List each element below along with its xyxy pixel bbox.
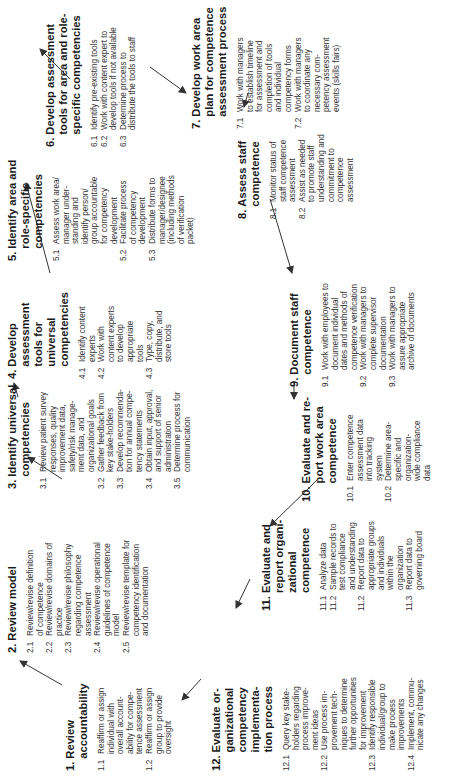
list-item: 9.2Work with managers to complete superv… — [359, 257, 388, 387]
list-item: 11.2Report data to appropriate groups an… — [357, 501, 405, 611]
text: 5. — [6, 249, 45, 261]
item-number: 9.2 — [359, 370, 388, 387]
list-item: 5.2Facilitate process of competency deve… — [119, 149, 148, 261]
item-text: Review/revise template for competency id… — [122, 540, 151, 636]
list-item: 3.4Obtain input, approval, and support o… — [145, 367, 174, 489]
item-text: Review patient survey responses, quality… — [39, 392, 97, 472]
item-text: Determine process for communication — [173, 391, 192, 472]
list-item: 1.1Reaffirm or assign individual with ov… — [97, 653, 145, 771]
item-number: 3.2 — [97, 472, 116, 489]
item-number: 9.1 — [321, 370, 359, 387]
item-number: 3.3 — [116, 472, 145, 489]
competence-process-diagram: 1. Review accountability 1.1Reaffirm or … — [0, 0, 450, 779]
step-3: 3. Identify universal competencies 3.1Re… — [6, 367, 193, 489]
item-number: 2.2 — [45, 636, 64, 653]
item-number: 3.1 — [39, 472, 97, 489]
arrow-12-to-1 — [182, 679, 201, 700]
item-text: Report data to governing board — [405, 531, 424, 590]
text: Assess staff competence — [236, 141, 262, 207]
list-item: 2.1Review/revise definition of competenc… — [26, 513, 45, 653]
item-number: 5.3 — [148, 244, 196, 261]
item-text: Assist as needed to promote staff unders… — [298, 134, 356, 202]
item-text: Obtain input, approval, and support of s… — [145, 390, 174, 472]
step-items: 4.1Identify content experts 4.2Work with… — [78, 289, 174, 379]
item-number: 4.2 — [97, 362, 145, 379]
text: Develop assessment tools for universal c… — [6, 292, 71, 367]
step-5: 5. Identify area and role-specific compe… — [6, 149, 196, 261]
list-item: 7.1Work with managers to establish timel… — [236, 4, 294, 129]
item-number: 5.2 — [119, 244, 148, 261]
list-item: 5.3Distribute forms to manager/designee … — [148, 149, 196, 261]
text: Evaluate and report organi- zational com… — [260, 520, 312, 593]
list-item: 4.1Identify content experts — [78, 289, 97, 379]
list-item: 11.1Analyze data — [319, 501, 329, 611]
list-item: 2.3Review/revise philosophy regarding co… — [64, 513, 93, 653]
list-item: 3.2Gather feedback from key stake-holder… — [97, 367, 116, 489]
item-number: 11.2 — [357, 590, 405, 611]
list-item: 3.5Determine process for communication — [173, 367, 192, 489]
item-number: 10.2 — [384, 481, 432, 502]
list-item: 5.1Assess work area/ manager under- stan… — [52, 149, 119, 261]
step-4: 4. Develop assessment tools for universa… — [6, 289, 174, 379]
list-item: 6.1Identify pre-existing tools — [90, 2, 100, 147]
step-items: 10.1Enter competence assessment data int… — [346, 394, 432, 502]
item-text: Distribute forms to manager/designee (in… — [148, 175, 196, 244]
item-text: Develop recommenda- tion for annual comp… — [116, 389, 145, 472]
step-items: 7.1Work with managers to establish timel… — [236, 4, 342, 129]
arrow-1-to-2 — [20, 661, 62, 685]
text: Review model — [6, 566, 19, 641]
item-number: 2.4 — [93, 636, 122, 653]
step-7: 7. Develop work area plan for competence… — [190, 4, 342, 129]
item-text: Report data to appropriate groups and in… — [357, 521, 405, 590]
list-item: 4.3Type, copy, distribute, and store too… — [145, 289, 174, 379]
step-items: 12.1Query key stake- holders regarding p… — [282, 646, 426, 771]
step-title: 5. Identify area and role-specific compe… — [6, 149, 45, 261]
text: Review accountability — [64, 683, 90, 758]
list-item: 9.3Work with managers to assure appropri… — [388, 257, 417, 387]
list-item: 2.2Review/revise domains of practice — [45, 513, 64, 653]
text: Evaluate and re- port work area competen… — [300, 397, 339, 483]
item-number: 5.1 — [52, 244, 119, 261]
item-text: Review/revise domains of practice — [45, 543, 64, 636]
step-items: 1.1Reaffirm or assign individual with ov… — [97, 653, 174, 771]
item-number: 12.1 — [282, 750, 320, 771]
text: Identify universal competencies — [6, 385, 32, 477]
list-item: 8.2Assist as needed to promote staff und… — [298, 127, 356, 219]
item-number: 12.4 — [407, 750, 426, 771]
text: Document staff competence — [288, 293, 314, 374]
step-items: 5.1Assess work area/ manager under- stan… — [52, 149, 196, 261]
item-number: 3.4 — [145, 472, 174, 489]
step-title: 3. Identify universal competencies — [6, 367, 32, 489]
item-text: Determine area- specific and organizatio… — [384, 420, 432, 481]
step-2: 2. Review model 2.1Review/revise definit… — [6, 513, 151, 653]
arrow-11-to-12 — [236, 579, 250, 608]
item-text: Work with content expert to develop tool… — [100, 27, 119, 130]
step-title: 8. Assess staff competence — [236, 127, 262, 219]
step-title: 12. Evaluate or- ganizational competency… — [210, 646, 275, 771]
item-number: 3.5 — [173, 472, 192, 489]
item-text: Type, copy, distribute, and store tools — [145, 311, 174, 362]
item-text: Monitor status of staff competence asses… — [269, 140, 298, 202]
item-text: Work with employees to document individu… — [321, 283, 359, 370]
item-number: 6.3 — [119, 130, 138, 147]
text: Develop work area plan for competence as… — [190, 7, 229, 117]
text: 3. — [6, 477, 32, 489]
item-number: 11.3 — [405, 590, 424, 611]
list-item: 12.2Use process im- provement tech- niqu… — [320, 646, 368, 771]
item-number: 1.1 — [97, 754, 145, 771]
item-text: Review/revise operational guidelines of … — [93, 542, 122, 636]
list-item: 3.3Develop recommenda- tion for annual c… — [116, 367, 145, 489]
step-items: 8.1Monitor status of staff competence as… — [269, 127, 355, 219]
list-item: 2.4Review/revise operational guidelines … — [93, 513, 122, 653]
step-1: 1. Review accountability 1.1Reaffirm or … — [64, 653, 174, 771]
item-text: Analyze data — [319, 543, 329, 590]
list-item: 11.2Sample records to test compliance an… — [329, 501, 358, 611]
text: 11. — [260, 593, 312, 611]
step-title: 2. Review model — [6, 513, 19, 653]
list-item: 6.3Determine process to distribute the t… — [119, 2, 138, 147]
text: 12. — [210, 752, 275, 771]
list-item: 7.2Work with managers to coordinate any … — [294, 4, 342, 129]
item-text: Identify content experts — [78, 306, 97, 362]
item-text: Assess work area/ manager under- standin… — [52, 177, 119, 244]
text: 2. — [6, 641, 19, 653]
